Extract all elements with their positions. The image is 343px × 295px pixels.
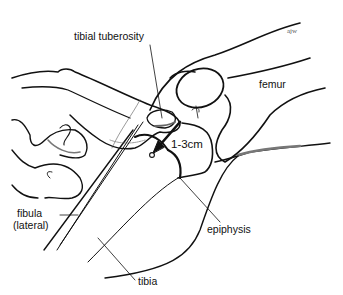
- measurement-origin-dot: [150, 153, 155, 158]
- femur-lower-outline: [216, 88, 325, 162]
- label-epiphysis: epiphysis: [207, 223, 251, 235]
- artist-signature: ajw: [287, 25, 297, 37]
- leader-epiphysis: [180, 178, 220, 222]
- tibia-shin-front: [215, 143, 330, 162]
- tibia-inner-line: [88, 178, 178, 262]
- femur-mid-outline: [228, 58, 310, 78]
- label-tibial-tuberosity: tibial tuberosity: [74, 30, 144, 42]
- glove-seam: [112, 100, 140, 148]
- patella: [171, 62, 229, 114]
- finger-3: [12, 185, 38, 198]
- leader-tibia: [98, 238, 135, 280]
- label-tibia: tibia: [138, 275, 157, 287]
- femur-upper-outline: [150, 23, 300, 110]
- thumb-back: [22, 87, 130, 118]
- tibia-shin-shade: [238, 146, 300, 155]
- epiphysis-line: [168, 150, 181, 178]
- label-measurement: 1-3cm: [171, 138, 203, 150]
- tibia-upper-outline: [178, 123, 213, 178]
- label-femur: femur: [259, 78, 286, 90]
- finger-2-curl: [47, 172, 52, 178]
- finger-1-curl: [60, 125, 70, 145]
- tibia-back-outline: [105, 156, 238, 278]
- label-fibula: fibula: [17, 207, 42, 219]
- label-fibula-lateral: (lateral): [13, 219, 49, 231]
